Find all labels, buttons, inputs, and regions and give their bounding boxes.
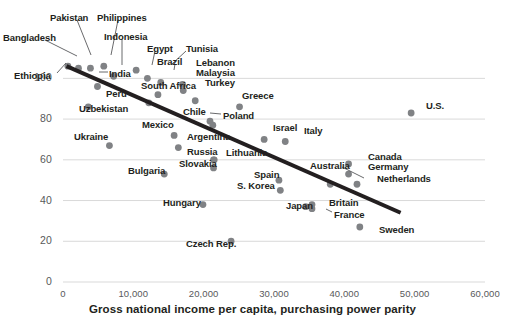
point-label-australia: Australia (310, 160, 350, 171)
point-label-mexico: Mexico (142, 119, 174, 130)
point-label-uzbekistan: Uzbekistan (79, 103, 128, 114)
leader-line (326, 209, 332, 212)
x-tick-label: 50,000 (385, 288, 445, 299)
point-label-bangladesh: Bangladesh (3, 32, 56, 43)
y-tick-label: 40 (18, 194, 52, 206)
x-axis-title: Gross national income per capita, purcha… (0, 303, 505, 315)
point-label-peru: Peru (106, 88, 127, 99)
point-label-sweden: Sweden (379, 224, 414, 235)
point-label-chile: Chile (183, 106, 206, 117)
point-label-brazil: Brazil (157, 56, 182, 67)
x-tick-label: 10,000 (103, 288, 163, 299)
leader-line (57, 63, 66, 73)
point-label-philippines: Philippines (97, 12, 147, 23)
plot-area (0, 0, 505, 326)
data-point[interactable] (282, 138, 289, 145)
point-label-argentina: Argentina (187, 131, 230, 142)
point-label-pakistan: Pakistan (50, 12, 88, 23)
point-label-india: India (109, 68, 131, 79)
x-tick-label: 30,000 (244, 288, 304, 299)
point-label-netherlands: Netherlands (377, 173, 431, 184)
data-point[interactable] (155, 91, 162, 98)
point-label-ukraine: Ukraine (74, 131, 108, 142)
data-point[interactable] (356, 224, 363, 231)
point-label-greece: Greece (242, 90, 274, 101)
data-point[interactable] (277, 187, 284, 194)
data-point[interactable] (171, 132, 178, 139)
data-point[interactable] (192, 97, 199, 104)
point-label-israel: Israel (273, 122, 297, 133)
data-point[interactable] (100, 63, 107, 70)
point-label-britain: Britain (329, 197, 358, 208)
point-label-russia: Russia (187, 146, 218, 157)
leader-line (77, 20, 91, 55)
x-tick-label: 0 (33, 288, 93, 299)
y-tick-label: 60 (18, 153, 52, 165)
data-point[interactable] (354, 181, 361, 188)
data-point[interactable] (87, 65, 94, 72)
point-label-south-africa: South Africa (141, 80, 196, 91)
point-label-japan: Japan (286, 200, 313, 211)
point-label-spain: Spain (254, 169, 279, 180)
y-tick-label: 20 (18, 234, 52, 246)
point-label-indonesia: Indonesia (104, 31, 147, 42)
point-label-ethiopia: Ethiopia (14, 70, 51, 81)
point-label-u-s: U.S. (426, 100, 444, 111)
point-label-lithuania: Lithuania (226, 147, 267, 158)
point-label-turkey: Turkey (205, 77, 235, 88)
data-point[interactable] (133, 67, 140, 74)
data-point[interactable] (261, 136, 268, 143)
point-label-germany: Germany (368, 161, 409, 172)
scatter-chart: 020406080100 010,00020,00030,00040,00050… (0, 0, 505, 326)
data-point[interactable] (175, 144, 182, 151)
point-label-egypt: Egypt (147, 43, 173, 54)
y-tick-label: 80 (18, 112, 52, 124)
point-label-hungary: Hungary (163, 197, 201, 208)
data-point[interactable] (408, 110, 415, 117)
x-tick-label: 40,000 (314, 288, 374, 299)
leader-line (210, 113, 221, 114)
point-label-czech-rep: Czech Rep. (186, 238, 236, 249)
point-label-bulgaria: Bulgaria (128, 165, 165, 176)
point-label-poland: Poland (223, 110, 254, 121)
point-label-italy: Italy (304, 125, 323, 136)
point-label-france: France (334, 209, 365, 220)
y-tick-label: 0 (18, 275, 52, 287)
data-point[interactable] (94, 83, 101, 90)
point-label-slovakia: Slovakia (179, 158, 217, 169)
point-label-tunisia: Tunisia (186, 43, 218, 54)
data-point[interactable] (106, 142, 113, 149)
x-tick-label: 20,000 (174, 288, 234, 299)
x-tick-label: 60,000 (455, 288, 505, 299)
point-label-s-korea: S. Korea (237, 180, 275, 191)
